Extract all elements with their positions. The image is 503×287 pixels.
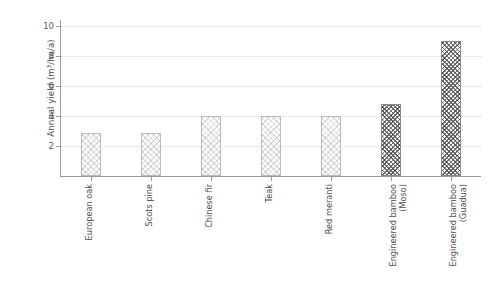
x-axis-tick-label-line: Engineered bamboo: [388, 184, 398, 267]
x-axis-tick-label-line: European oak: [84, 184, 94, 240]
x-axis-tick-label-line: Scots pine: [144, 184, 154, 227]
x-axis-tick-label-line: Engineered bamboo: [448, 184, 458, 267]
bar: [381, 104, 401, 176]
bar: [261, 116, 281, 176]
x-axis-tick-label-line: (Guadua): [459, 184, 469, 267]
gridline: [61, 26, 481, 28]
x-axis-tick-label-line: (Moso): [399, 184, 409, 267]
y-axis-tick-label: 2: [28, 142, 54, 151]
x-axis-tick-mark: [151, 177, 152, 181]
x-axis-tick-mark: [451, 177, 452, 181]
x-axis-tick-mark: [331, 177, 332, 181]
x-axis-tick-label-line: Teak: [264, 184, 274, 202]
x-axis-tick-mark: [271, 177, 272, 181]
y-axis-tick-label: 8: [28, 52, 54, 61]
x-axis-tick-mark: [91, 177, 92, 181]
bar: [81, 133, 101, 177]
x-axis-tick-label-line: Red meranti: [324, 184, 334, 234]
bar: [141, 133, 161, 177]
y-axis-title: Annual yield (m³/ha/a): [22, 0, 36, 20]
bar: [321, 116, 341, 176]
plot-area: [61, 20, 481, 176]
y-axis-tick-label: 6: [28, 82, 54, 91]
gridline: [61, 56, 481, 58]
x-axis-tick-mark: [391, 177, 392, 181]
y-axis-tick-label: 10: [28, 22, 54, 31]
x-axis-tick-mark: [211, 177, 212, 181]
bar-chart-figure: Annual yield (m³/ha/a) 246810 European o…: [0, 0, 503, 287]
bar: [201, 116, 221, 176]
gridline: [61, 86, 481, 88]
bar: [441, 41, 461, 176]
x-axis-tick-label-line: Chinese fir: [204, 184, 214, 228]
y-axis-tick-label: 4: [28, 112, 54, 121]
